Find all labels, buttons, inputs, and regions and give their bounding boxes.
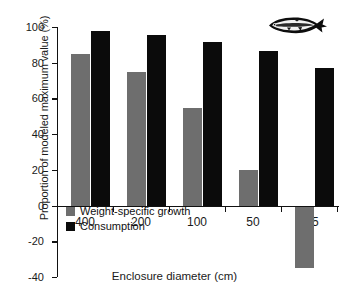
y-tick-neg20: -20 [52, 241, 57, 242]
bar-consumption-400 [91, 31, 110, 206]
bar-growth-100 [183, 108, 202, 206]
bar-growth-400 [71, 54, 90, 206]
legend-swatch-consumption [66, 222, 75, 231]
bar-growth-50 [239, 170, 258, 206]
x-tick-0 [57, 206, 58, 212]
legend-item-consumption: Consumption [66, 219, 190, 233]
fish-icon [262, 13, 328, 37]
y-tick-label-neg20: -20 [28, 235, 44, 247]
legend-label-growth: Weight-specific growth [80, 205, 190, 217]
y-tick-80: 80 [52, 63, 57, 64]
y-axis-line [57, 27, 58, 277]
y-tick-label-100: 100 [26, 21, 44, 33]
x-tick-label-50: 50 [246, 215, 259, 229]
y-tick-60: 60 [52, 98, 57, 99]
y-tick-40: 40 [52, 134, 57, 135]
y-tick-label-60: 60 [32, 92, 44, 104]
y-tick-20: 20 [52, 170, 57, 171]
bar-growth-200 [127, 72, 146, 206]
x-axis-title: Enclosure diameter (cm) [0, 270, 349, 282]
bar-chart-figure: Proportion of modeled maximum value (%) … [0, 0, 349, 294]
plot-area: 100 80 60 40 20 0 -20 -40 400 200 [57, 27, 339, 277]
x-tick-3 [225, 206, 226, 212]
bar-consumption-50 [259, 51, 278, 206]
x-tick-5 [337, 206, 338, 212]
bar-growth-25 [295, 207, 314, 268]
y-tick-label-0: 0 [38, 200, 44, 212]
y-tick-label-20: 20 [32, 164, 44, 176]
y-tick-100: 100 [52, 27, 57, 28]
bar-consumption-100 [203, 42, 222, 206]
x-tick-4 [281, 206, 282, 212]
legend-item-growth: Weight-specific growth [66, 204, 190, 218]
bar-consumption-200 [147, 35, 166, 206]
y-tick-label-80: 80 [32, 57, 44, 69]
legend-label-consumption: Consumption [80, 220, 145, 232]
y-tick-label-40: 40 [32, 128, 44, 140]
legend-swatch-growth [66, 207, 75, 216]
bar-consumption-25 [315, 68, 334, 206]
legend: Weight-specific growth Consumption [66, 204, 190, 234]
